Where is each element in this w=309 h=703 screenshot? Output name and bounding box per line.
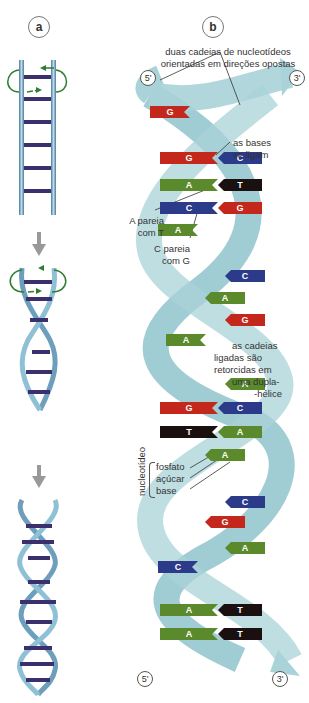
base-pair: AT [0,179,309,191]
annotation-helix-line1: as cadeias [214,340,282,352]
base-A: A [205,292,245,304]
annotation-c-pairs-line1: C pareia [150,243,190,255]
base-G: G [160,402,218,414]
end-label-3prime-top: 3' [289,70,305,86]
annotation-sugar: açúcar [156,473,185,485]
base-pair: C [0,561,309,573]
annotation-bases-line2: se ligam [233,149,271,161]
base-A: A [225,542,265,554]
annotation-phosphate: fosfato [156,461,185,473]
base-pair: G [0,314,309,326]
annotation-helix-line3: retorcidas em [214,364,282,376]
base-pair: G [0,516,309,528]
annotation-strands: duas cadeias de nucleotídeos orientadas … [158,46,298,70]
base-A: A [166,334,206,346]
base-T: T [160,426,218,438]
base-C: C [158,561,198,573]
annotation-strands-line1: duas cadeias de nucleotídeos [158,46,298,58]
annotation-nucleotide: nucleotídeo [136,447,147,496]
base-A: A [218,426,262,438]
end-label-3prime-bottom: 3' [272,671,288,687]
base-G: G [205,516,245,528]
base-C: C [225,270,265,282]
base-T: T [218,604,262,616]
base-A: A [205,449,245,461]
end-label-5prime-top: 5' [140,70,156,86]
base-pair: AT [0,628,309,640]
base-C: C [218,402,262,414]
base-T: T [218,628,262,640]
annotation-helix-line2: ligadas são [214,352,282,364]
base-pair: AT [0,604,309,616]
base-pair: G [0,106,309,118]
annotation-base: base [156,485,185,497]
base-A: A [158,224,198,236]
base-A: A [160,604,218,616]
base-pair: A [0,292,309,304]
base-G: G [160,152,218,164]
annotation-helix-line4: uma dupla- [214,376,282,388]
annotation-a-pairs-t: A pareia com T [126,215,164,239]
base-pair: A [0,449,309,461]
annotation-bases-bind: as bases se ligam [233,137,271,161]
base-pair: GC [0,402,309,414]
annotation-a-pairs-line2: com T [126,227,164,239]
base-C: C [160,202,218,214]
base-G: G [225,314,265,326]
end-label-5prime-bottom: 5' [137,671,153,687]
nucleotide-bracket [149,462,155,498]
base-pair: A [0,542,309,554]
annotation-c-pairs-g: C pareia com G [150,243,190,267]
annotation-c-pairs-line2: com G [150,255,190,267]
annotation-helix-line5: -hélice [214,388,282,400]
base-pair: CG [0,202,309,214]
base-T: T [218,179,262,191]
annotation-nucleotide-parts: fosfato açúcar base [156,461,185,497]
base-C: C [225,496,265,508]
base-G: G [218,202,262,214]
base-A: A [160,628,218,640]
annotation-strands-line2: orientadas em direções opostas [158,58,298,70]
annotation-double-helix: as cadeias ligadas são retorcidas em uma… [214,340,282,400]
base-pair: TA [0,426,309,438]
base-A: A [160,179,218,191]
annotation-a-pairs-line1: A pareia [126,215,164,227]
base-G: G [150,106,190,118]
base-pair: C [0,270,309,282]
annotation-bases-line1: as bases [233,137,271,149]
